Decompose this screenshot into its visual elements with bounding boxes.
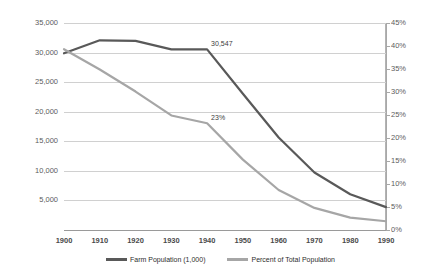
right-axis-tick-label: 40% (391, 42, 406, 50)
legend-item-farm-population: Farm Population (1,000) (106, 255, 205, 264)
left-axis-tick-label: 5,000 (2, 196, 58, 204)
gridline (64, 23, 386, 24)
gridline (64, 82, 386, 83)
right-axis-tick-mark (386, 46, 390, 47)
x-axis-tick-label: 1910 (80, 236, 120, 245)
legend-item-percent-total: Percent of Total Population (227, 255, 335, 264)
right-axis-tick-mark (386, 230, 390, 231)
x-axis-tick-label: 1950 (223, 236, 263, 245)
left-axis-tick-label: 15,000 (2, 137, 58, 145)
right-axis-tick-mark (386, 69, 390, 70)
right-axis-tick-mark (386, 207, 390, 208)
right-axis-tick-label: 5% (391, 203, 402, 211)
chart-legend: Farm Population (1,000) Percent of Total… (0, 255, 441, 264)
right-axis-tick-label: 45% (391, 19, 406, 27)
gridline (64, 141, 386, 142)
left-axis-tick-label: 30,000 (2, 49, 58, 57)
farm-population-line-chart: 5,00010,00015,00020,00025,00030,00035,00… (0, 0, 441, 276)
x-axis-tick-label: 1960 (259, 236, 299, 245)
right-axis-tick-mark (386, 184, 390, 185)
left-axis-ticks: 5,00010,00015,00020,00025,00030,00035,00… (0, 0, 58, 276)
legend-label-farm-population: Farm Population (1,000) (130, 255, 205, 264)
right-axis-tick-label: 15% (391, 157, 406, 165)
legend-swatch-farm-population (106, 258, 127, 261)
gridline (64, 53, 386, 54)
x-axis-tick-label: 1980 (330, 236, 370, 245)
left-axis-tick-label: 35,000 (2, 19, 58, 27)
gridline (64, 112, 386, 113)
gridline (64, 200, 386, 201)
right-axis-tick-mark (386, 92, 390, 93)
data-point-label: 23% (211, 114, 225, 122)
x-axis-tick-label: 1920 (116, 236, 156, 245)
left-axis-tick-label: 10,000 (2, 167, 58, 175)
right-axis-tick-label: 25% (391, 111, 406, 119)
x-axis-tick-label: 1930 (151, 236, 191, 245)
legend-swatch-percent-total (227, 258, 248, 261)
right-axis-tick-label: 30% (391, 88, 406, 96)
right-axis-tick-mark (386, 115, 390, 116)
x-axis-tick-label: 1990 (366, 236, 406, 245)
legend-label-percent-total: Percent of Total Population (251, 255, 335, 264)
right-axis-tick-label: 10% (391, 180, 406, 188)
plot-area (64, 23, 386, 230)
gridline (64, 171, 386, 172)
x-axis-tick-label: 1970 (294, 236, 334, 245)
x-axis-tick-label: 1940 (187, 236, 227, 245)
right-axis-tick-label: 0% (391, 226, 402, 234)
right-axis-tick-mark (386, 161, 390, 162)
right-axis-tick-mark (386, 23, 390, 24)
left-axis-tick-label: 25,000 (2, 78, 58, 86)
data-point-label: 30,547 (211, 40, 232, 48)
right-axis-tick-label: 20% (391, 134, 406, 142)
right-axis-tick-label: 35% (391, 65, 406, 73)
right-axis-line (386, 23, 387, 231)
right-axis-tick-mark (386, 138, 390, 139)
x-axis-tick-label: 1900 (44, 236, 84, 245)
left-axis-tick-label: 20,000 (2, 108, 58, 116)
gridline (64, 230, 387, 231)
